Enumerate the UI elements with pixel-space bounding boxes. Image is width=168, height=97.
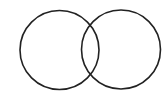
venn-diagram-svg [0,0,168,97]
venn-diagram [0,0,168,97]
right-set-circle [82,10,161,89]
left-set-circle [20,11,99,90]
